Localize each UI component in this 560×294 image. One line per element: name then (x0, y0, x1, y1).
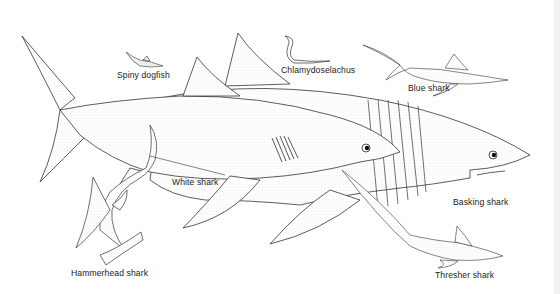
label-blue-shark: Blue shark (408, 83, 450, 93)
spiny-dogfish-figure (126, 52, 163, 67)
label-spiny-dogfish: Spiny dogfish (117, 70, 170, 80)
shark-drawing (0, 0, 560, 294)
chlamydoselachus-figure (285, 36, 330, 63)
label-thresher-shark: Thresher shark (435, 270, 494, 280)
label-white-shark: White shark (172, 177, 218, 187)
label-basking-shark: Basking shark (453, 197, 508, 207)
shark-illustration: Spiny dogfish Chlamydoselachus Blue shar… (0, 0, 560, 294)
image-edge (554, 0, 560, 294)
label-hammerhead-shark: Hammerhead shark (71, 268, 148, 278)
label-chlamydoselachus: Chlamydoselachus (281, 65, 355, 75)
